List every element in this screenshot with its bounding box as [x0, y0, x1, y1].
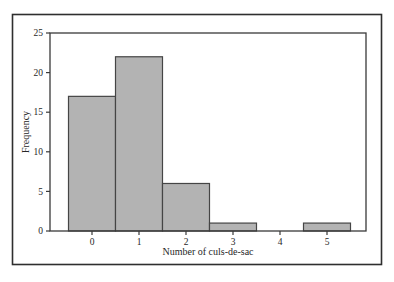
x-axis-label: Number of culs-de-sac — [162, 246, 254, 257]
y-tick-label: 5 — [38, 187, 43, 197]
histogram-figure: 0510152025012345 Number of culs-de-sac F… — [0, 0, 394, 282]
y-tick-label: 20 — [34, 68, 44, 78]
y-axis-label: Frequency — [20, 111, 31, 153]
histogram-bar-0 — [69, 96, 116, 231]
x-tick-label: 5 — [325, 237, 330, 247]
histogram-bar-3 — [210, 223, 257, 231]
histogram-bar-5 — [304, 223, 351, 231]
bars-layer — [69, 57, 351, 231]
histogram-bar-1 — [116, 57, 163, 231]
y-tick-label: 25 — [34, 28, 44, 38]
y-tick-label: 10 — [34, 147, 44, 157]
x-tick-label: 2 — [184, 237, 189, 247]
y-tick-label: 15 — [34, 107, 44, 117]
x-tick-label: 0 — [90, 237, 95, 247]
y-tick-label: 0 — [38, 226, 43, 236]
histogram-bar-2 — [163, 183, 210, 231]
x-tick-label: 1 — [137, 237, 142, 247]
x-tick-label: 4 — [278, 237, 283, 247]
culs-de-sac-histogram: 0510152025012345 Number of culs-de-sac F… — [0, 0, 394, 282]
x-tick-label: 3 — [231, 237, 236, 247]
